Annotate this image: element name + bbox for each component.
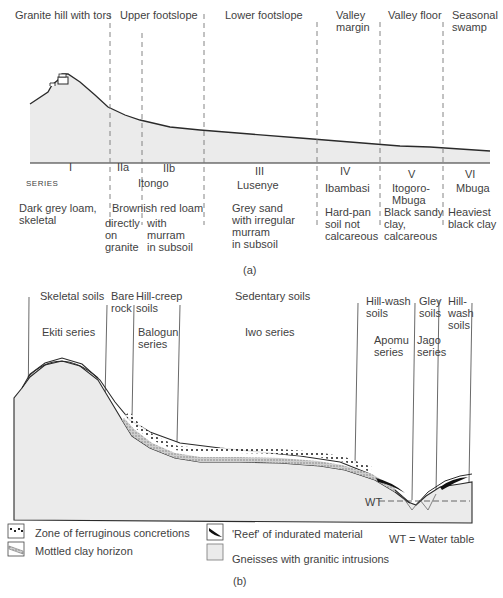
- soil-desc-iv: Hard-pan soil not calcareous: [325, 206, 378, 242]
- legend-mottled-clay-label: Mottled clay horizon: [35, 545, 133, 557]
- soil-desc-iib: with murram in subsoil: [147, 217, 193, 253]
- soil-surface: [22, 358, 410, 503]
- series-name-lusenye: Lusenye: [237, 179, 279, 191]
- panel-b-caption: (b): [233, 575, 246, 587]
- soil-desc-vi: Heaviest black clay: [448, 206, 496, 230]
- zone-header-hill-creep-soils: Hill-creep soils: [136, 290, 182, 314]
- zone-header-valley-floor: Valley floor: [388, 9, 442, 21]
- tor-icon: [50, 83, 55, 86]
- tor-icon: [59, 74, 66, 77]
- series-heading: SERIES: [26, 178, 58, 190]
- ground-fill: [30, 74, 490, 163]
- series-numeral-iia: IIa: [117, 161, 129, 173]
- series-label-balogun: Balogun series: [138, 326, 178, 350]
- zone-header-hill-wash-soils-right: Hill- wash soils: [448, 295, 474, 331]
- zone-header-upper-footslope: Upper footslope: [120, 9, 198, 21]
- series-numeral-i: I: [69, 161, 72, 173]
- series-numeral-iv: IV: [340, 165, 350, 177]
- soil-desc-ii: Brownish red loam: [112, 202, 203, 214]
- water-table-marker: WT: [365, 496, 382, 508]
- zone-header-bare-rock: Bare rock: [111, 290, 134, 314]
- legend-water-table-note: WT = Water table: [389, 533, 474, 545]
- zone-header-valley-margin: Valley margin: [336, 9, 370, 33]
- series-numeral-v: V: [408, 168, 415, 180]
- legend-ferruginous-label: Zone of ferruginous concretions: [35, 527, 190, 539]
- soil-desc-iia: directly on granite: [105, 217, 140, 253]
- series-label-apomu: Apomu series: [374, 334, 409, 358]
- zone-header-seasonal-swamp: Seasonal swamp: [452, 9, 498, 33]
- zone-header-sedentary-soils: Sedentary soils: [235, 290, 310, 302]
- series-name-ibambasi: Ibambasi: [325, 182, 370, 194]
- panel-a-caption: (a): [243, 264, 256, 276]
- series-numeral-vi: VI: [465, 168, 475, 180]
- series-name-itongo: Itongo: [138, 177, 169, 189]
- reef-left: [376, 478, 405, 493]
- soil-desc-i: Dark grey loam, skeletal: [19, 202, 97, 226]
- zone-header-lower-footslope: Lower footslope: [225, 9, 303, 21]
- reef-right: [440, 477, 468, 490]
- series-name-itogoro-mbuga: Itogoro- Mbuga: [392, 182, 430, 206]
- tor-icon: [58, 77, 68, 84]
- ferruginous-concretions-zone: [125, 412, 372, 472]
- series-name-mbuga: Mbuga: [456, 182, 490, 194]
- legend-gneiss-label: Gneisses with granitic intrusions: [232, 553, 389, 565]
- zone-header-skeletal-soils: Skeletal soils: [40, 290, 104, 302]
- mottled-clay-horizon: [122, 418, 395, 492]
- soil-desc-v: Black sandy clay, calcareous: [384, 206, 443, 242]
- zone-header-hill-wash-soils: Hill-wash soils: [366, 295, 411, 319]
- series-label-iwo: Iwo series: [245, 326, 295, 338]
- series-numeral-iii: III: [255, 165, 264, 177]
- soil-desc-iii: Grey sand with irregular murram in subso…: [232, 202, 295, 250]
- zone-header-gley-soils: Gley soils: [419, 295, 442, 319]
- series-label-ekiti: Ekiti series: [42, 326, 95, 338]
- legend-reef-label: 'Reef' of indurated material: [232, 528, 363, 540]
- series-label-jago: Jago series: [417, 334, 446, 358]
- series-numeral-iib: IIb: [163, 162, 175, 174]
- gneiss-bedrock: [14, 361, 472, 523]
- zone-header-granite-hill: Granite hill with tors: [15, 9, 112, 21]
